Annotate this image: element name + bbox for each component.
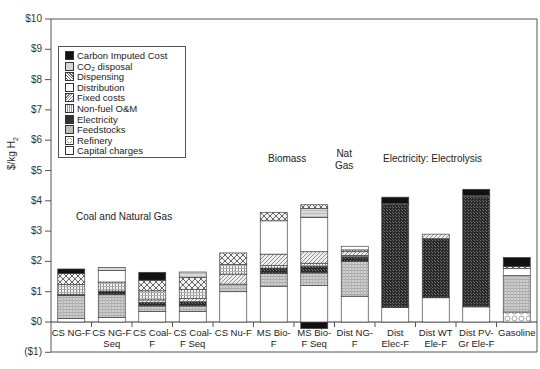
legend-swatch-icon xyxy=(65,83,74,92)
segment-feedstocks xyxy=(58,295,85,318)
segment-distribution xyxy=(98,270,125,282)
segment-feedstocks xyxy=(98,295,125,318)
category-label: Gasoline xyxy=(496,327,538,349)
y-axis-label-subscript: 2 xyxy=(12,137,19,141)
segment-fixed-costs xyxy=(220,274,247,284)
group-annotation: Biomass xyxy=(268,153,306,165)
bar-gasoline xyxy=(503,257,530,322)
segment-distribution xyxy=(301,217,328,251)
segment-fixed-costs xyxy=(179,299,206,302)
segment-carbon-imputed-cost xyxy=(382,197,409,203)
legend-label: Feedstocks xyxy=(77,124,126,135)
legend-label: CO₂ disposal xyxy=(77,61,132,72)
segment-fixed-costs xyxy=(422,234,449,239)
segment-dispensing xyxy=(301,205,328,209)
category-label: Dist PV-Gr Ele-F xyxy=(455,327,497,349)
category-label: CS NG-FSeq xyxy=(91,327,133,349)
segment-dispensing xyxy=(58,274,85,285)
segment-dispensing xyxy=(179,277,206,289)
segment-capital-charges xyxy=(58,318,85,322)
bar-cs-nu-f xyxy=(220,253,247,322)
legend-item: Distribution xyxy=(65,82,125,93)
segment-capital-charges xyxy=(220,292,247,322)
segment-fixed-costs xyxy=(139,300,166,302)
y-tick-label: $9 xyxy=(4,43,42,54)
legend-label: Capital charges xyxy=(77,145,143,156)
bar-cs-coal-f xyxy=(139,272,166,322)
group-annotation: NatGas xyxy=(335,148,353,172)
segment-co2-disposal xyxy=(98,267,125,270)
segment-capital-charges xyxy=(341,296,368,322)
segment-electricity xyxy=(139,302,166,306)
legend-item: Dispensing xyxy=(65,71,124,82)
segment-capital-charges xyxy=(260,286,287,322)
segment-capital-charges xyxy=(382,307,409,322)
segment-feedstocks xyxy=(301,273,328,286)
category-label: Dist NG-F xyxy=(334,327,376,349)
y-tick-label: $1 xyxy=(4,286,42,297)
segment-distribution xyxy=(260,221,287,254)
category-label: CS Coal-F xyxy=(131,327,173,349)
segment-feedstocks xyxy=(220,284,247,292)
segment-capital-charges xyxy=(98,317,125,322)
segment-electricity xyxy=(341,257,368,262)
y-tick-label: $4 xyxy=(4,195,42,206)
group-annotation: Coal and Natural Gas xyxy=(76,211,172,223)
segment-fixed-costs xyxy=(260,254,287,266)
legend: Carbon Imputed CostCO₂ disposalDispensin… xyxy=(58,46,186,158)
segment-non-fuel-o-m xyxy=(220,264,247,274)
legend-label: Distribution xyxy=(77,82,125,93)
segment-non-fuel-o-m xyxy=(58,284,85,294)
legend-item: Feedstocks xyxy=(65,124,126,135)
legend-item: Fixed costs xyxy=(65,92,125,103)
segment-carbon-imputed-cost xyxy=(463,189,490,195)
segment-non-fuel-o-m xyxy=(139,291,166,300)
segment-carbon-imputed-cost xyxy=(503,257,530,266)
bar-ms-bio-f xyxy=(260,212,287,322)
legend-item: Carbon Imputed Cost xyxy=(65,50,167,61)
segment-non-fuel-o-m xyxy=(301,263,328,266)
category-label: MS Bio-F Seq xyxy=(293,327,335,349)
bar-dist-ng-f xyxy=(341,246,368,322)
legend-item: Refinery xyxy=(65,135,112,146)
segment-fixed-costs xyxy=(341,252,368,256)
legend-label: Refinery xyxy=(77,135,112,146)
group-annotation: Electricity: Electrolysis xyxy=(383,153,482,165)
legend-swatch-icon xyxy=(65,115,74,124)
segment-capital-charges xyxy=(301,286,328,322)
y-tick-label: $3 xyxy=(4,225,42,236)
segment-co2-disposal xyxy=(179,272,206,277)
legend-item: Electricity xyxy=(65,114,118,125)
legend-label: Fixed costs xyxy=(77,92,125,103)
y-tick-label: $7 xyxy=(4,104,42,115)
legend-swatch-icon xyxy=(65,93,74,102)
segment-capital-charges xyxy=(463,307,490,322)
segment-capital-charges xyxy=(139,311,166,322)
category-label: MS Bio-F xyxy=(253,327,295,349)
legend-swatch-icon xyxy=(65,136,74,145)
y-tick-label: $2 xyxy=(4,255,42,266)
category-label: CS Coal-F Seq xyxy=(172,327,214,349)
segment-electricity xyxy=(179,302,206,306)
bar-cs-coal-f-seq xyxy=(179,272,206,322)
bar-cs-ng-f-seq xyxy=(98,267,125,322)
legend-label: Non-fuel O&M xyxy=(77,103,137,114)
segment-feedstocks xyxy=(341,261,368,296)
legend-swatch-icon xyxy=(65,62,74,71)
legend-swatch-icon xyxy=(65,125,74,134)
bar-ms-bio-f-seq xyxy=(301,205,328,329)
category-label: DistElec-F xyxy=(374,327,416,349)
legend-swatch-icon xyxy=(65,146,74,155)
segment-non-fuel-o-m xyxy=(260,266,287,268)
segment-non-fuel-o-m xyxy=(179,290,206,299)
bar-cs-ng-f xyxy=(58,269,85,322)
segment-carbon-imputed-cost xyxy=(58,269,85,274)
y-tick-label: $10 xyxy=(4,13,42,24)
segment-carbon-imputed-cost xyxy=(139,272,166,280)
legend-label: Dispensing xyxy=(77,71,124,82)
legend-swatch-icon xyxy=(65,72,74,81)
legend-item: Capital charges xyxy=(65,145,143,156)
segment-co2-disposal xyxy=(301,208,328,217)
y-tick-label: ($1) xyxy=(4,346,42,357)
segment-feedstocks xyxy=(260,274,287,287)
